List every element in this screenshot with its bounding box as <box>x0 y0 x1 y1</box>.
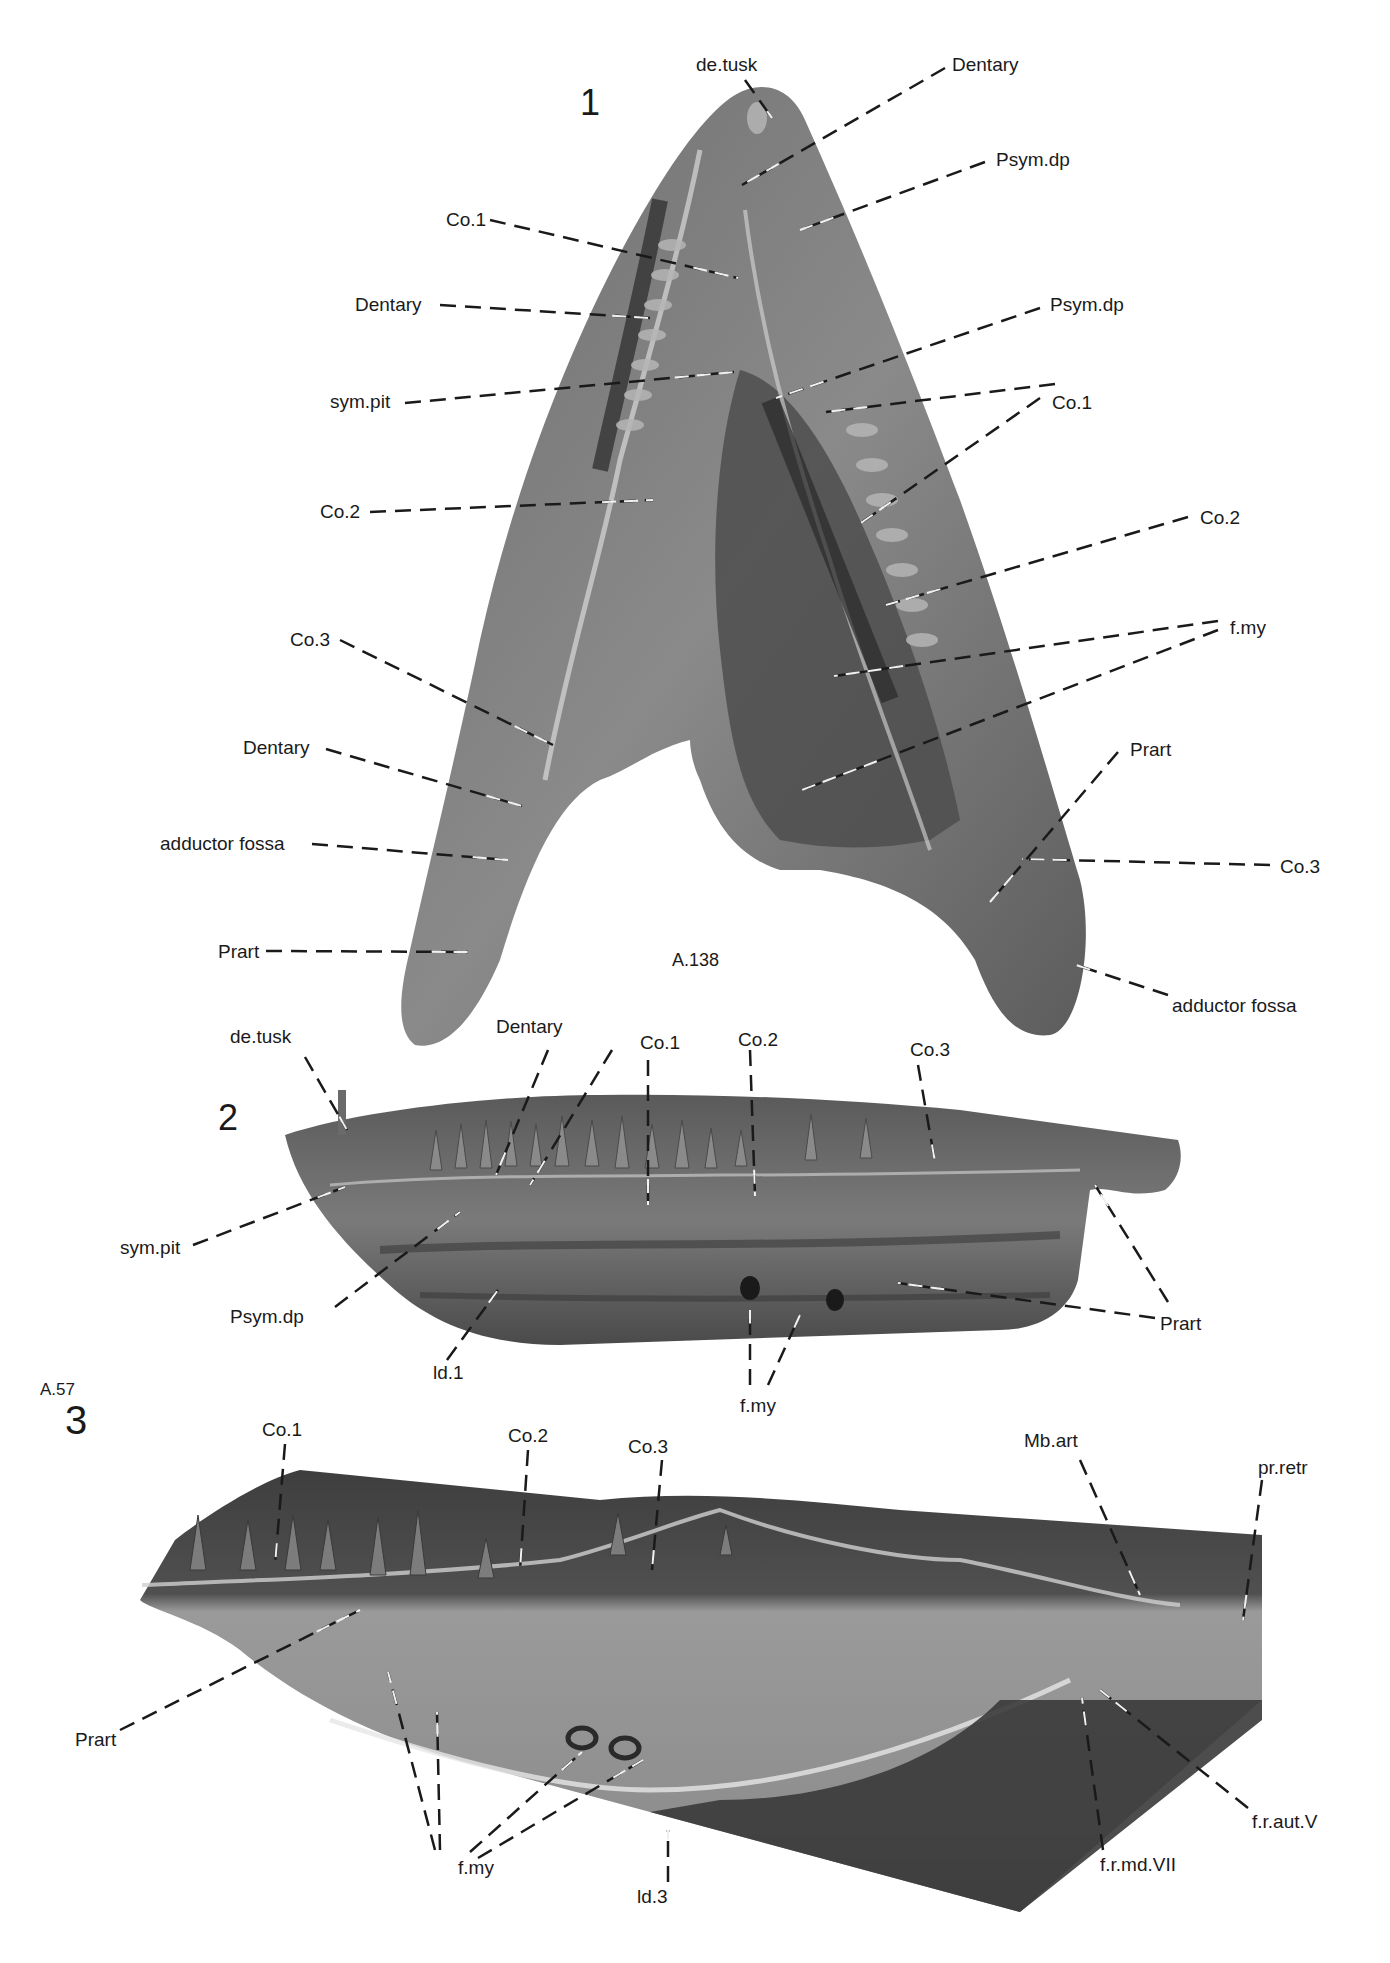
leader-line-highlight <box>613 1760 643 1778</box>
label-dentary: Dentary <box>243 738 310 758</box>
label-co-1: Co.1 <box>446 210 486 230</box>
label-sym-pit: sym.pit <box>330 392 390 412</box>
leader-line-highlight <box>612 316 650 318</box>
leader-lines <box>0 0 1390 1963</box>
leader-line-highlight <box>675 372 734 378</box>
label-co-3: Co.3 <box>910 1040 950 1060</box>
leader-line-highlight <box>767 111 772 118</box>
panel-number-1: 1 <box>580 85 600 121</box>
label-co-1: Co.1 <box>1052 393 1092 413</box>
label-psym-dp: Psym.dp <box>996 150 1070 170</box>
leader-line-highlight <box>530 1161 545 1185</box>
label-co-2: Co.2 <box>1200 508 1240 528</box>
panel-number-3: 3 <box>65 1400 87 1440</box>
specimen-id-panel-3: A.57 <box>40 1380 75 1400</box>
label-co-3: Co.3 <box>628 1437 668 1457</box>
leader-line-highlight <box>776 382 824 398</box>
label-ld-1: ld.1 <box>433 1363 464 1383</box>
label-psym-dp: Psym.dp <box>230 1307 304 1327</box>
label-f-my: f.my <box>740 1396 776 1416</box>
leader-line-highlight <box>339 1117 347 1130</box>
label-dentary: Dentary <box>355 295 422 315</box>
leader-line-highlight <box>1129 1571 1140 1595</box>
leader-line-highlight <box>1100 1690 1127 1711</box>
label-f-my: f.my <box>458 1858 494 1878</box>
label-de-tusk: de.tusk <box>696 55 757 75</box>
panel-number-2: 2 <box>218 1100 238 1136</box>
leader-line-highlight <box>1073 964 1090 970</box>
label-adductor-fossa: adductor fossa <box>1172 996 1297 1016</box>
label-prart: Prart <box>1130 740 1171 760</box>
leader-line-highlight <box>754 1170 755 1196</box>
leader-line-highlight <box>1022 859 1067 860</box>
label-f-r-md-vii: f.r.md.VII <box>1100 1855 1176 1875</box>
label-prart: Prart <box>1160 1314 1201 1334</box>
label-co-1: Co.1 <box>640 1033 680 1053</box>
label-co-2: Co.2 <box>738 1030 778 1050</box>
leader-line-highlight <box>275 1543 277 1565</box>
label-psym-dp: Psym.dp <box>1050 295 1124 315</box>
label-co-2: Co.2 <box>320 502 360 522</box>
label-prart: Prart <box>218 942 259 962</box>
label-co-1: Co.1 <box>262 1420 302 1440</box>
label-de-tusk: de.tusk <box>230 1027 291 1047</box>
label-pr-retr: pr.retr <box>1258 1458 1308 1478</box>
specimen-id-panel-1: A.138 <box>672 950 719 970</box>
label-f-r-aut-v: f.r.aut.V <box>1252 1812 1317 1832</box>
leader-line-highlight <box>1082 1698 1086 1725</box>
label-dentary: Dentary <box>952 55 1019 75</box>
label-ld-3: ld.3 <box>637 1887 668 1907</box>
leader-line-highlight <box>489 1290 498 1303</box>
leader-line-highlight <box>562 1752 582 1770</box>
label-sym-pit: sym.pit <box>120 1238 180 1258</box>
leader-line-highlight <box>388 1672 396 1704</box>
label-f-my: f.my <box>1230 618 1266 638</box>
label-prart: Prart <box>75 1730 116 1750</box>
leader-line-highlight <box>794 1315 800 1328</box>
figure-plate: 1 A.138 2 A.57 3 de.tuskDentaryCo.1Psym.… <box>0 0 1390 1963</box>
label-co-3: Co.3 <box>1280 857 1320 877</box>
leader-line-highlight <box>886 589 940 605</box>
label-dentary: Dentary <box>496 1017 563 1037</box>
label-adductor-fossa: adductor fossa <box>160 834 285 854</box>
label-co-3: Co.3 <box>290 630 330 650</box>
label-co-2: Co.2 <box>508 1426 548 1446</box>
leader-line-highlight <box>318 1187 345 1197</box>
leader-line-highlight <box>438 1212 461 1229</box>
label-mb-art: Mb.art <box>1024 1431 1078 1451</box>
leader-line-highlight <box>693 268 738 278</box>
